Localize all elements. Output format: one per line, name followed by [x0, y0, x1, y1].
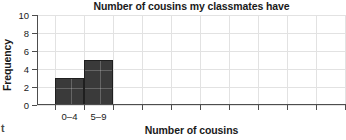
bar-interior-gridline — [85, 70, 112, 71]
gridline-vertical — [258, 15, 259, 105]
bar-interior-gridline — [85, 88, 112, 89]
y-tick-label: 2 — [0, 82, 29, 93]
y-tick-label: 10 — [0, 10, 29, 21]
gridline-horizontal — [37, 15, 346, 16]
y-tick-label: 6 — [0, 46, 29, 57]
gridline-vertical — [171, 15, 172, 105]
x-tick-label: 5–9 — [91, 111, 107, 122]
bar-interior-gridline — [56, 88, 83, 89]
histogram-figure: Number of cousins my classmates have Fre… — [0, 0, 346, 140]
x-tick-mark — [258, 105, 259, 110]
y-tick-mark — [32, 87, 37, 88]
x-tick-mark — [171, 105, 172, 110]
x-axis-label: Number of cousins — [37, 124, 346, 136]
x-tick-mark — [200, 105, 201, 110]
y-tick-mark — [32, 69, 37, 70]
x-tick-mark — [84, 105, 85, 110]
gridline-vertical — [142, 15, 143, 105]
gridline-vertical — [316, 15, 317, 105]
y-tick-label: 8 — [0, 28, 29, 39]
bar — [84, 60, 113, 105]
chart-title: Number of cousins my classmates have — [37, 0, 346, 13]
x-tick-label: 0–4 — [62, 111, 78, 122]
bar-interior-gridline — [71, 79, 72, 104]
gridline-horizontal — [37, 33, 346, 34]
x-tick-mark — [142, 105, 143, 110]
bar — [55, 78, 84, 105]
x-tick-mark — [287, 105, 288, 110]
y-tick-mark — [32, 15, 37, 16]
y-tick-mark — [32, 105, 37, 106]
x-tick-mark — [55, 105, 56, 110]
bar-interior-gridline — [100, 61, 101, 104]
gridline-horizontal — [37, 51, 346, 52]
gridline-vertical — [113, 15, 114, 105]
x-tick-mark — [113, 105, 114, 110]
x-tick-mark — [316, 105, 317, 110]
y-tick-label: 4 — [0, 64, 29, 75]
gridline-vertical — [200, 15, 201, 105]
y-tick-mark — [32, 33, 37, 34]
y-tick-label: 0 — [0, 100, 29, 111]
x-tick-mark — [229, 105, 230, 110]
gridline-vertical — [229, 15, 230, 105]
y-tick-mark — [32, 51, 37, 52]
gridline-vertical — [287, 15, 288, 105]
y-axis-spine — [37, 15, 38, 105]
plot-area — [37, 15, 346, 105]
cropped-edge-glyph: t — [1, 123, 5, 133]
